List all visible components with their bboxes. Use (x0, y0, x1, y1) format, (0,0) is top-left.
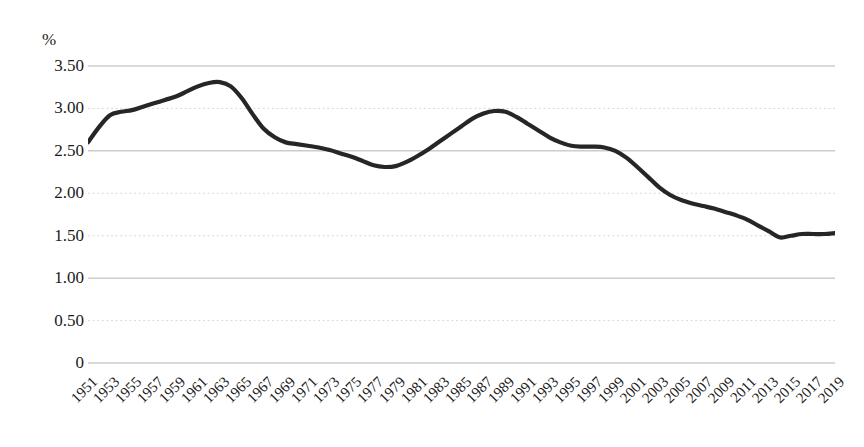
line-chart: % 3.503.002.502.001.501.000.500 19511953… (0, 0, 864, 447)
x-axis-tick-labels: 1951195319551957195919611963196519671969… (0, 0, 864, 447)
